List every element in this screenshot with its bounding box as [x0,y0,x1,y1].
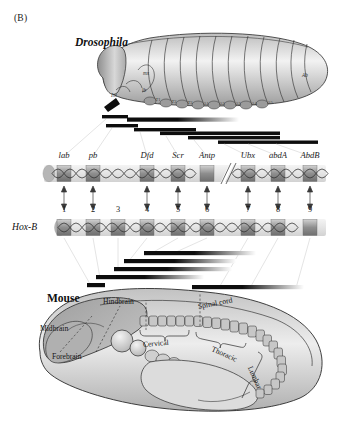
hoxb-number-7: 7 [246,205,250,214]
drosophila-chromosome [43,163,328,184]
drosophila-title: Drosophila [75,36,128,48]
anatomy-label-hindbrain: Hindbrain [103,297,134,306]
fly-head-label-mx: mx [143,70,149,76]
homology-arrows [61,186,312,210]
anatomy-label-forebrain: Forebrain [52,352,82,361]
gene-label-abda: abdA [269,150,287,160]
mouse-expression-bars [87,251,304,289]
hoxb-number-5: 5 [176,205,180,214]
gene-label-antp: Antp [199,150,215,160]
fly-segment-a3: A3 [235,101,241,106]
fly-head-label-ab: Ab [302,72,308,78]
fly-segment-a2: A2 [219,101,225,106]
figure-graphics [0,0,340,428]
hoxb-number-4: 4 [145,205,149,214]
mouse-embryo-drawing [39,288,322,411]
mouse-title: Mouse [47,292,80,304]
fly-segment-a4: A4 [251,101,257,106]
fly-segment-t2: T2 [171,99,176,104]
hoxb-row-label: Hox-B [12,221,37,232]
drosophila-embryo-drawing [98,33,328,112]
gene-label-scr: Scr [172,150,183,160]
hoxb-number-9: 9 [308,205,312,214]
hoxb-number-8: 8 [276,205,280,214]
hoxb-number-6: 6 [205,205,209,214]
fly-segment-a1: A1 [203,101,209,106]
gene-label-ubx: Ubx [241,150,255,160]
fly-segment-t1: T1 [155,97,160,102]
fly-segment-t3: T3 [187,100,192,105]
hoxb-number-3: 3 [116,205,120,214]
fly-head-label-lb: lb [142,87,146,93]
gene-label-pb: pb [89,150,98,160]
figure-panel-b: (B) [0,0,340,428]
fly-segment-a5: A5 [267,100,273,105]
fly-head-label-int: Int [111,92,117,98]
drosophila-expression-bars [102,115,318,144]
gene-label-dfd: Dfd [141,150,154,160]
mouse-chromosome [55,219,326,236]
gene-label-abdb: AbdB [300,150,319,160]
anatomy-label-midbrain: Midbrain [40,324,68,333]
hoxb-number-1: 1 [62,205,66,214]
hoxb-number-2: 2 [91,205,95,214]
gene-label-lab: lab [59,150,70,160]
